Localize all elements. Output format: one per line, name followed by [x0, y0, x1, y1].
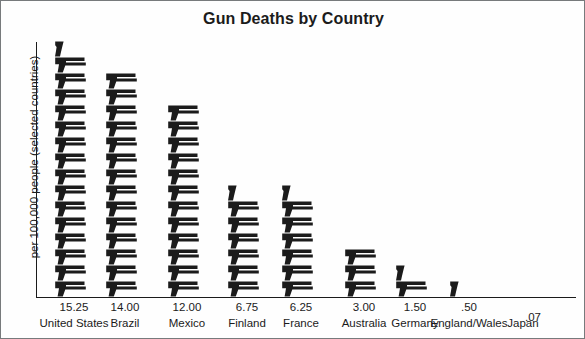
- x-axis-value-label: 6.75: [236, 301, 258, 313]
- pistol-icon: [167, 137, 207, 153]
- pistol-icon: [167, 105, 207, 121]
- x-axis-category-label: England/Wales: [431, 317, 508, 329]
- pistol-icon: [54, 201, 94, 217]
- pictogram-column: [281, 185, 327, 297]
- pistol-partial-icon: [281, 185, 321, 201]
- pistol-icon: [105, 121, 145, 137]
- pistol-icon: [167, 217, 207, 233]
- pistol-icon: [54, 89, 94, 105]
- pistol-partial-icon: [395, 265, 435, 281]
- x-axis-value-label: 6.25: [290, 301, 312, 313]
- pistol-icon: [105, 73, 145, 89]
- pictogram-column: [344, 249, 390, 297]
- x-axis-category-label: Australia: [342, 317, 387, 329]
- pistol-icon: [54, 217, 94, 233]
- pistol-icon: [281, 201, 321, 217]
- page-title: Gun Deaths by Country: [1, 10, 585, 28]
- x-axis-category-label: Finland: [228, 317, 266, 329]
- pistol-icon: [167, 169, 207, 185]
- pistol-icon: [281, 281, 321, 297]
- pistol-icon: [105, 233, 145, 249]
- x-axis-value-label: 15.25: [60, 301, 89, 313]
- pistol-icon: [105, 137, 145, 153]
- pistol-icon: [281, 265, 321, 281]
- pistol-icon: [227, 217, 267, 233]
- pistol-icon: [54, 249, 94, 265]
- x-axis-category-labels: United StatesBrazilMexicoFinlandFranceAu…: [1, 317, 585, 333]
- chart-figure: Gun Deaths by Country per 100,000 people…: [0, 0, 585, 339]
- pistol-icon: [227, 265, 267, 281]
- pistol-icon: [105, 249, 145, 265]
- pictogram-column: [449, 281, 495, 297]
- pistol-icon: [54, 73, 94, 89]
- pistol-partial-icon: [227, 185, 267, 201]
- pistol-icon: [54, 137, 94, 153]
- pistol-icon: [167, 233, 207, 249]
- x-axis-category-label: Brazil: [111, 317, 140, 329]
- pistol-partial-icon: [54, 41, 94, 57]
- pistol-icon: [227, 249, 267, 265]
- x-axis-value-label: 3.00: [353, 301, 375, 313]
- pistol-icon: [54, 169, 94, 185]
- x-axis-category-label: Mexico: [169, 317, 205, 329]
- pistol-icon: [167, 265, 207, 281]
- pistol-icon: [105, 153, 145, 169]
- x-axis-value-labels: 15.2514.0012.006.756.253.001.50.50.07: [1, 301, 585, 317]
- pistol-icon: [105, 265, 145, 281]
- pictogram-column: [54, 41, 100, 297]
- pistol-icon: [54, 57, 94, 73]
- x-axis-value-label: .50: [461, 301, 477, 313]
- pistol-icon: [344, 265, 384, 281]
- pictogram-column: [167, 105, 213, 297]
- pistol-icon: [227, 201, 267, 217]
- pistol-icon: [281, 249, 321, 265]
- x-axis-value-label: 1.50: [404, 301, 426, 313]
- pistol-icon: [105, 217, 145, 233]
- x-axis-category-label: United States: [39, 317, 108, 329]
- pistol-icon: [105, 281, 145, 297]
- pistol-icon: [54, 233, 94, 249]
- x-axis-category-label: France: [283, 317, 319, 329]
- pistol-icon: [105, 105, 145, 121]
- pistol-icon: [105, 201, 145, 217]
- pistol-icon: [227, 281, 267, 297]
- pictogram-columns: [37, 42, 577, 297]
- pistol-icon: [54, 185, 94, 201]
- x-axis-value-label: 12.00: [173, 301, 202, 313]
- pistol-icon: [105, 169, 145, 185]
- pistol-icon: [167, 185, 207, 201]
- pistol-icon: [344, 281, 384, 297]
- pistol-icon: [105, 185, 145, 201]
- pictogram-column: [105, 73, 151, 297]
- x-axis-value-label: 14.00: [111, 301, 140, 313]
- pistol-icon: [167, 121, 207, 137]
- pistol-icon: [54, 121, 94, 137]
- pistol-partial-icon: [449, 281, 489, 297]
- pistol-icon: [54, 281, 94, 297]
- pistol-icon: [54, 153, 94, 169]
- pistol-icon: [54, 105, 94, 121]
- pistol-icon: [167, 153, 207, 169]
- pictogram-column: [395, 265, 441, 297]
- pistol-icon: [167, 201, 207, 217]
- pistol-icon: [344, 249, 384, 265]
- pistol-icon: [105, 89, 145, 105]
- pistol-icon: [167, 249, 207, 265]
- pistol-icon: [281, 217, 321, 233]
- pistol-icon: [54, 265, 94, 281]
- pictogram-column: [227, 185, 273, 297]
- pistol-icon: [395, 281, 435, 297]
- pistol-icon: [227, 233, 267, 249]
- pistol-icon: [167, 281, 207, 297]
- pistol-icon: [281, 233, 321, 249]
- x-axis-category-label: Japan: [507, 317, 538, 329]
